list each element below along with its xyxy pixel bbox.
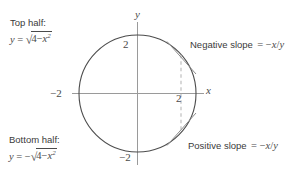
bottom-half-radicand-exp: 2 <box>52 149 56 157</box>
annotation-top-half: Top half: y = √4−x2 <box>10 17 52 46</box>
tick-label-x-positive-2: 2 <box>176 92 182 106</box>
positive-slope-expression: = −x/y <box>251 140 278 151</box>
annotation-bottom-half-equation: y = −√4−x2 <box>9 149 60 163</box>
annotation-positive-slope: Positive slope = −x/y <box>188 134 278 154</box>
top-half-equals: = <box>17 34 23 45</box>
bottom-half-equals: = <box>16 151 22 162</box>
top-half-radicand: 4−x2 <box>31 31 51 45</box>
bottom-half-lhs: y <box>9 151 14 162</box>
annotation-top-half-title: Top half: <box>10 17 52 29</box>
negative-slope-equals: = <box>257 39 263 50</box>
annotation-bottom-half: Bottom half: y = −√4−x2 <box>9 134 60 163</box>
annotation-bottom-half-title: Bottom half: <box>9 134 60 146</box>
positive-slope-denominator: y <box>273 140 278 151</box>
negative-slope-text: Negative slope <box>190 39 253 50</box>
figure-container: Top half: y = √4−x2 Bottom half: y = −√4… <box>0 0 307 177</box>
tick-label-y-negative-2: −2 <box>119 151 131 165</box>
bottom-half-radicand: 4−x2 <box>36 148 56 162</box>
tick-label-x-negative-2: −2 <box>50 87 62 101</box>
top-half-radicand-exp: 2 <box>47 32 51 40</box>
tick-label-y-positive-2: 2 <box>123 38 129 52</box>
bottom-half-radical: √4−x2 <box>31 149 57 163</box>
x-axis-label: x <box>206 84 211 98</box>
top-half-lhs: y <box>10 34 15 45</box>
positive-slope-text: Positive slope <box>188 140 247 151</box>
positive-slope-equals: = <box>251 140 257 151</box>
annotation-top-half-equation: y = √4−x2 <box>10 32 52 46</box>
y-axis-label: y <box>135 8 140 22</box>
negative-slope-expression: = −x/y <box>257 39 284 50</box>
annotation-negative-slope: Negative slope = −x/y <box>190 33 284 53</box>
top-half-radical: √4−x2 <box>26 32 52 46</box>
negative-slope-denominator: y <box>279 39 284 50</box>
